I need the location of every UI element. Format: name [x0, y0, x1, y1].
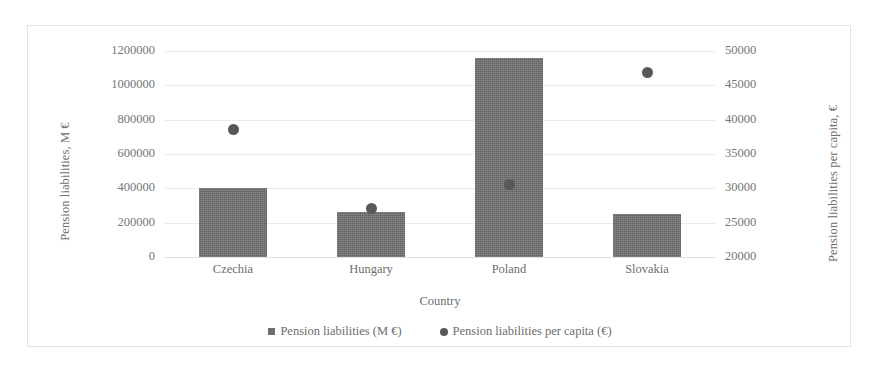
marker-hungary[interactable] — [366, 203, 377, 214]
x-axis-label-czechia: Czechia — [164, 262, 302, 277]
y-axis-left-title: Pension liabilities, M € — [58, 82, 73, 282]
bar-czechia[interactable] — [199, 188, 267, 257]
bar-slovakia[interactable] — [613, 214, 681, 257]
y-axis-left-tick-label: 1200000 — [111, 44, 164, 57]
gridline — [164, 257, 716, 258]
gridline — [164, 120, 716, 121]
y-axis-left-tick-label: 400000 — [118, 181, 165, 194]
legend-square-icon — [268, 328, 275, 335]
plot-area: 020000040000060000080000010000001200000 … — [164, 51, 716, 257]
y-axis-right-tick-label: 30000 — [716, 181, 756, 194]
legend-label: Pension liabilities per capita (€) — [453, 324, 612, 339]
legend-item-bar[interactable]: Pension liabilities (M €) — [268, 324, 401, 339]
chart-plot-frame: Pension liabilities, M € Pension liabili… — [27, 25, 851, 347]
chart-figure: Pension liabilities, M € Pension liabili… — [0, 0, 878, 366]
marker-slovakia[interactable] — [642, 67, 653, 78]
y-axis-right-tick-label: 25000 — [716, 216, 756, 229]
gridline — [164, 85, 716, 86]
gridline — [164, 51, 716, 52]
x-axis-title: Country — [28, 294, 852, 309]
y-axis-right-tick-label: 50000 — [716, 44, 756, 57]
y-axis-left-tick-label: 800000 — [118, 113, 165, 126]
y-axis-right-tick-label: 20000 — [716, 250, 756, 263]
legend-label: Pension liabilities (M €) — [280, 324, 401, 339]
x-axis-label-poland: Poland — [440, 262, 578, 277]
marker-poland[interactable] — [504, 179, 515, 190]
y-axis-left-tick-label: 1000000 — [111, 78, 164, 91]
bar-hungary[interactable] — [337, 212, 405, 257]
y-axis-left-tick-label: 600000 — [118, 147, 165, 160]
marker-czechia[interactable] — [228, 124, 239, 135]
y-axis-right-tick-label: 45000 — [716, 78, 756, 91]
y-axis-right-title: Pension liabilities per capita, € — [826, 84, 841, 284]
gridline — [164, 154, 716, 155]
legend-item-scatter[interactable]: Pension liabilities per capita (€) — [440, 324, 612, 339]
chart-legend: Pension liabilities (M €)Pension liabili… — [28, 324, 852, 339]
y-axis-right-tick-label: 40000 — [716, 113, 756, 126]
y-axis-left-tick-label: 200000 — [118, 216, 165, 229]
x-axis-label-hungary: Hungary — [302, 262, 440, 277]
y-axis-right-tick-label: 35000 — [716, 147, 756, 160]
x-axis-label-slovakia: Slovakia — [578, 262, 716, 277]
legend-circle-icon — [440, 328, 448, 336]
y-axis-left-tick-label: 0 — [149, 250, 164, 263]
bar-poland[interactable] — [475, 58, 543, 257]
